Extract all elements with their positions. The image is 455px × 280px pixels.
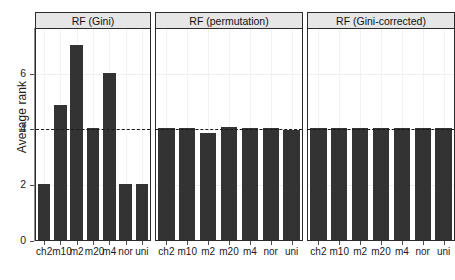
x-tick-label: ch2	[308, 247, 329, 257]
x-tick-label: nor	[260, 247, 281, 257]
x-tick-mark	[292, 241, 293, 245]
bar	[221, 127, 237, 240]
y-tick-label: 0	[4, 235, 26, 246]
bar	[373, 128, 389, 240]
y-tick-mark	[30, 74, 34, 75]
x-tick-label: m10	[177, 247, 198, 257]
x-tick-mark	[126, 241, 127, 245]
x-tick-label: m4	[391, 247, 412, 257]
bar	[352, 128, 368, 240]
x-tick-label: nor	[117, 247, 133, 257]
x-tick-mark	[187, 241, 188, 245]
x-tick-mark	[229, 241, 230, 245]
bar	[283, 130, 299, 240]
x-tick-label: nor	[412, 247, 433, 257]
x-tick-mark	[77, 241, 78, 245]
x-axis: ch2m10m2m20m4noruni	[36, 241, 150, 263]
bar	[38, 184, 51, 240]
x-tick-mark	[402, 241, 403, 245]
x-tick-label: m10	[329, 247, 350, 257]
x-tick-label: m2	[198, 247, 219, 257]
panel-title-strip: RF (permutation)	[155, 12, 303, 29]
x-axis: ch2m10m2m20m4noruni	[156, 241, 302, 263]
x-tick-mark	[444, 241, 445, 245]
bar	[70, 45, 83, 240]
bar	[158, 128, 174, 240]
x-tick-mark	[109, 241, 110, 245]
x-tick-label: uni	[134, 247, 150, 257]
chart-panel: RF (Gini-corrected)	[307, 12, 455, 241]
x-tick-label: uni	[281, 247, 302, 257]
reference-line	[156, 129, 302, 130]
x-tick-label: m20	[219, 247, 240, 257]
x-tick-label: m4	[239, 247, 260, 257]
panel-plot-area	[155, 29, 303, 241]
x-axis: ch2m10m2m20m4noruni	[308, 241, 454, 263]
bar	[119, 184, 132, 240]
chart-panel: RF (permutation)	[155, 12, 303, 241]
x-tick-label: uni	[433, 247, 454, 257]
bar	[54, 105, 67, 240]
bar	[87, 128, 100, 240]
reference-line	[36, 129, 150, 130]
bar	[331, 128, 347, 240]
bar	[310, 128, 326, 240]
x-tick-label: ch2	[36, 247, 52, 257]
bar	[136, 184, 149, 240]
panel-plot-area	[35, 29, 151, 241]
x-tick-label: m4	[101, 247, 117, 257]
y-tick-mark	[30, 129, 34, 130]
panel-plot-area	[307, 29, 455, 241]
x-tick-mark	[44, 241, 45, 245]
x-tick-mark	[60, 241, 61, 245]
x-tick-mark	[93, 241, 94, 245]
bar	[179, 128, 195, 240]
bar	[103, 73, 116, 240]
x-tick-label: m2	[350, 247, 371, 257]
x-tick-mark	[250, 241, 251, 245]
x-tick-mark	[142, 241, 143, 245]
x-tick-label: m2	[69, 247, 85, 257]
x-tick-label: ch2	[156, 247, 177, 257]
x-tick-mark	[208, 241, 209, 245]
y-tick-mark	[30, 185, 34, 186]
bar	[415, 128, 431, 240]
x-tick-mark	[423, 241, 424, 245]
x-tick-mark	[271, 241, 272, 245]
bar	[200, 133, 216, 240]
x-tick-mark	[339, 241, 340, 245]
bar	[435, 128, 451, 240]
bar	[394, 128, 410, 240]
x-tick-mark	[166, 241, 167, 245]
x-tick-label: m10	[52, 247, 68, 257]
x-tick-label: m20	[85, 247, 101, 257]
x-tick-mark	[318, 241, 319, 245]
bar	[263, 128, 279, 240]
panel-title-strip: RF (Gini)	[35, 12, 151, 29]
y-axis-title: Average rank	[15, 37, 29, 197]
x-tick-mark	[381, 241, 382, 245]
chart-panel: RF (Gini)	[35, 12, 151, 241]
bar	[242, 128, 258, 240]
panel-title-strip: RF (Gini-corrected)	[307, 12, 455, 29]
x-tick-label: m20	[371, 247, 392, 257]
y-tick-mark	[30, 241, 34, 242]
reference-line	[308, 129, 454, 130]
chart-figure: 0246 Average rank RF (Gini)RF (permutati…	[0, 0, 455, 280]
x-tick-mark	[360, 241, 361, 245]
